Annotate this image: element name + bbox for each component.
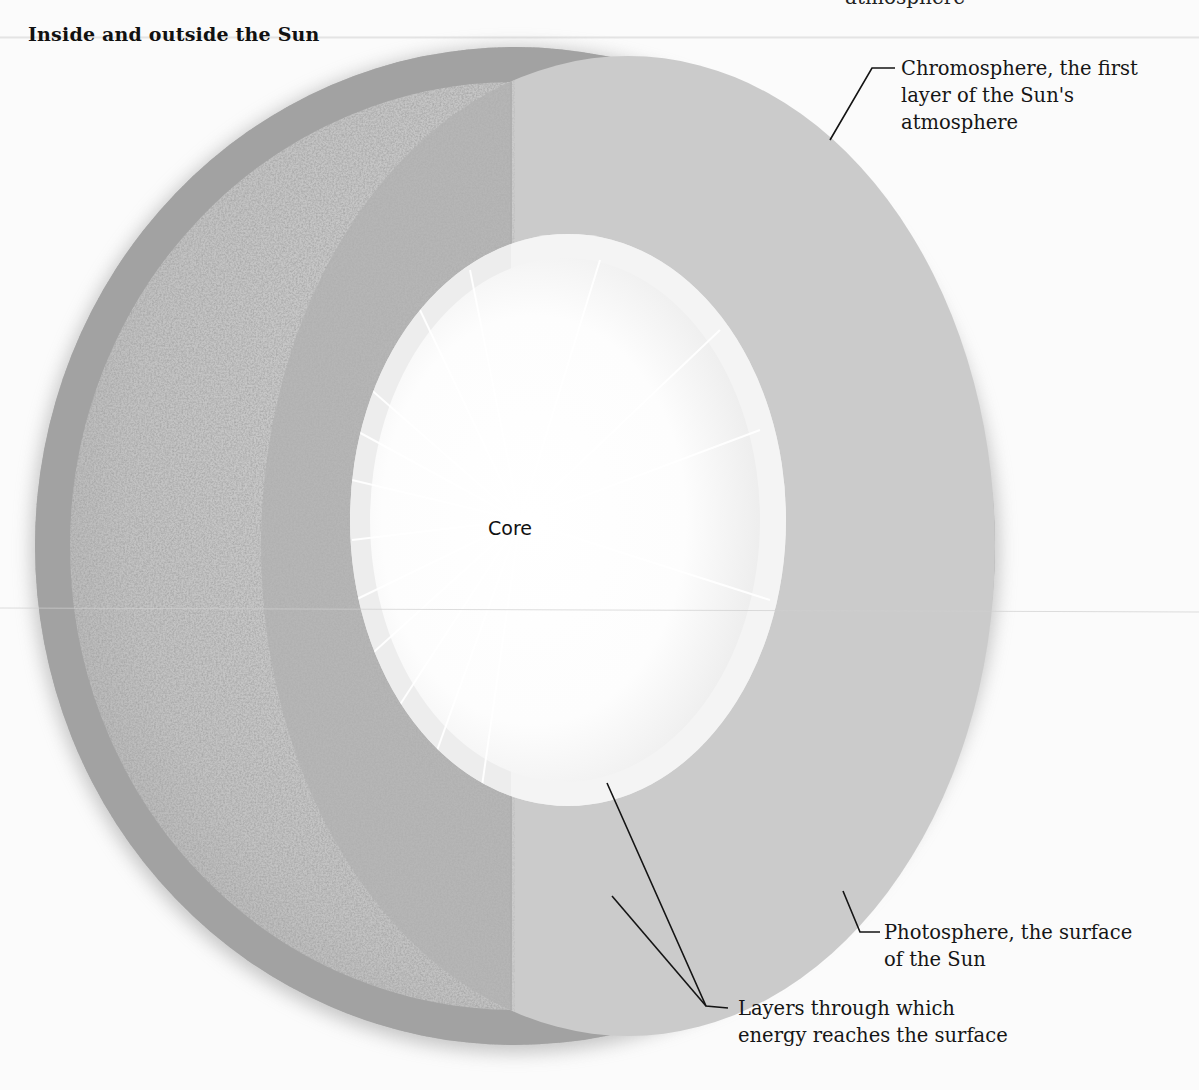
chromosphere-label-line2: layer of the Sun's xyxy=(901,82,1138,109)
layers-label-line2: energy reaches the surface xyxy=(738,1022,1008,1049)
layers-label-line1: Layers through which xyxy=(738,995,1008,1022)
chromosphere-label: Chromosphere, the first layer of the Sun… xyxy=(901,55,1138,136)
chromosphere-label-line1: Chromosphere, the first xyxy=(901,55,1138,82)
figure-title: Inside and outside the Sun xyxy=(28,22,320,46)
photosphere-label-line2: of the Sun xyxy=(884,946,1132,973)
chromosphere-leader-line xyxy=(830,68,895,140)
layers-label: Layers through which energy reaches the … xyxy=(738,995,1008,1049)
photosphere-label: Photosphere, the surface of the Sun xyxy=(884,919,1132,973)
core-label: Core xyxy=(488,517,532,539)
chromosphere-label-line3: atmosphere xyxy=(901,109,1138,136)
photosphere-label-line1: Photosphere, the surface xyxy=(884,919,1132,946)
